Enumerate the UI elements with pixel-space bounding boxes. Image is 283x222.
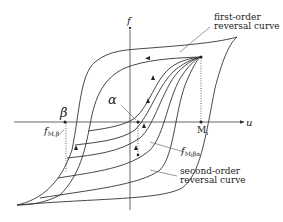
f-mi-beta-alpha-label: fMiβα (180, 145, 200, 158)
arrow-icon (134, 145, 138, 150)
first-order-label-line2: reversal curve (214, 21, 280, 31)
arrow-icon (74, 145, 78, 150)
arrow-icon (142, 123, 146, 128)
f-axis-label: f (126, 15, 133, 26)
f-mi-beta-alpha-leader (150, 142, 184, 152)
alpha-label: α (108, 92, 117, 107)
f-m-beta-label: fM,β (43, 125, 60, 138)
second-order-label-line2: reversal curve (180, 175, 246, 185)
beta-label: β (59, 105, 68, 120)
arrow-icon (145, 56, 150, 60)
hysteresis-diagram: f u β α Mi fM,β fMiβα first-order revers… (0, 0, 283, 222)
u-axis-label: u (246, 117, 252, 128)
second-order-leader (150, 170, 177, 176)
arrow-icon (151, 75, 155, 80)
peak-point-mi (200, 56, 203, 124)
mi-label: Mi (197, 125, 208, 136)
first-order-leader (180, 27, 210, 52)
second-order-curves (40, 57, 201, 198)
